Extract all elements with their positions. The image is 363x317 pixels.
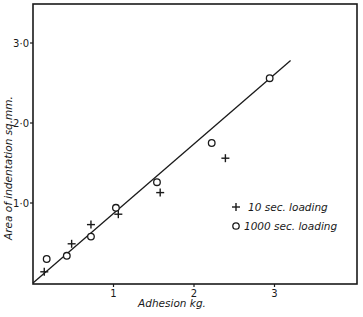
plus-marker — [156, 189, 164, 197]
circle-marker — [113, 205, 120, 212]
y-axis-ticks: 1·02·03·0 — [13, 38, 33, 209]
circle-marker — [64, 253, 71, 260]
plus-marker — [40, 268, 48, 276]
circle-marker-icon — [233, 223, 239, 229]
legend-item-10-sec: 10 sec. loading — [232, 201, 328, 213]
circle-marker — [154, 179, 161, 186]
y-tick-label: 2·0 — [13, 118, 29, 129]
plot-frame — [33, 4, 357, 284]
circle-marker — [208, 140, 215, 147]
legend-item-1000-sec: 1000 sec. loading — [233, 220, 338, 232]
plus-marker-icon — [232, 203, 240, 211]
circle-marker — [266, 75, 273, 82]
y-axis-label: Area of indentation sq.mm. — [2, 96, 14, 241]
plus-marker — [87, 221, 95, 229]
legend-label-10-sec: 10 sec. loading — [248, 201, 328, 213]
circle-marker — [88, 233, 95, 240]
data-points — [40, 75, 273, 276]
chart: 1·02·03·0 123 10 sec. loading 1000 sec. … — [0, 0, 363, 317]
x-axis-label: Adhesion kg. — [137, 297, 206, 309]
y-tick-label: 1·0 — [13, 198, 29, 209]
legend-label-1000-sec: 1000 sec. loading — [244, 220, 337, 232]
circle-marker — [43, 256, 50, 263]
y-tick-label: 3·0 — [13, 38, 29, 49]
x-tick-label: 1 — [110, 288, 116, 299]
legend: 10 sec. loading 1000 sec. loading — [232, 201, 337, 232]
fit-line — [33, 61, 291, 283]
plus-marker — [221, 154, 229, 162]
x-tick-label: 3 — [271, 288, 277, 299]
